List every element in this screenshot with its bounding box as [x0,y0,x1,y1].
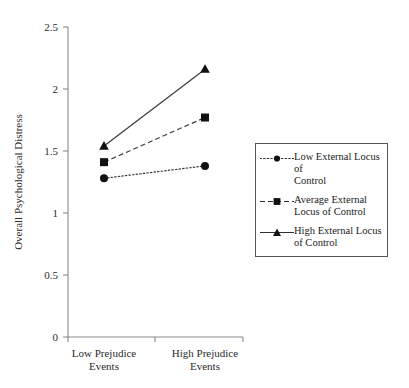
series-line-solid [104,69,205,146]
legend-label-low-line2: Control [294,175,326,186]
y-tick-label-2: 2 [53,83,59,95]
dotted-line-circle-marker-icon [260,152,294,165]
y-tick-label-1: 1 [53,207,59,219]
series-line-dashed [104,118,205,163]
series-triangle [99,64,210,149]
legend-item-low-external[interactable]: Low External Locus ofControl [260,151,382,187]
legend-item-high-external[interactable]: High External Locusof Control [260,225,382,249]
data-point-circle-0 [100,174,108,182]
data-point-triangle-0 [99,141,109,150]
data-point-circle-1 [201,162,209,170]
x-category-label-low-line1: Low Prejudice [72,347,137,359]
y-tick-label-0: 0 [53,331,59,343]
legend-label-average-line1: Average External [294,194,367,205]
legend-item-average-external[interactable]: Average ExternalLocus of Control [260,194,382,218]
series-line-dotted [104,166,205,178]
legend-label-high-line2: of Control [294,237,337,248]
data-point-triangle-1 [200,64,210,73]
legend-label-high-line1: High External Locus [294,225,381,236]
legend-label-low-external: Low External Locus ofControl [294,151,382,187]
legend-label-high-external: High External Locusof Control [294,225,381,249]
legend-label-average-external: Average ExternalLocus of Control [294,194,367,218]
data-point-square-1 [201,114,209,122]
x-category-label-high-line1: High Prejudice [172,347,238,359]
x-category-label-high-line2: Events [190,360,220,372]
legend-label-low-line1: Low External Locus of [294,151,380,174]
x-category-label-low-line2: Events [89,360,119,372]
dashed-line-square-marker-icon [260,195,294,208]
y-tick-label-1.5: 1.5 [44,145,58,157]
y-axis-title: Overall Psychological Distress [12,114,24,250]
data-point-square-0 [100,158,108,166]
y-tick-label-2.5: 2.5 [44,21,58,33]
figure-container: 2.5 2 1.5 1 0.5 0 Overall Psychological … [0,0,409,388]
series-square [100,114,209,167]
series-layer [99,64,210,182]
legend-label-average-line2: Locus of Control [294,206,366,217]
y-tick-label-0.5: 0.5 [44,269,58,281]
series-circle [100,162,209,182]
solid-line-triangle-marker-icon [260,226,294,239]
chart-legend: Low External Locus ofControl Average Ext… [255,143,388,257]
